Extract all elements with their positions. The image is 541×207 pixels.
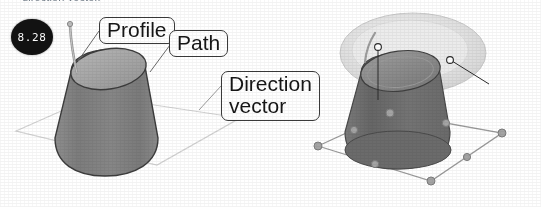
selection-marker-path-8-29	[447, 57, 454, 64]
scanned-figure-page: direction vector.	[0, 0, 541, 207]
figure-panel-8-28: 8.28 Profile Path Direction vector	[0, 0, 271, 207]
selection-marker-profile-8-29	[375, 44, 382, 51]
figure-number-badge-8-28: 8.28	[11, 19, 53, 55]
plane-handle-mid	[463, 153, 470, 160]
frustum-base-8-29	[345, 131, 451, 169]
scene-8-29	[270, 0, 541, 207]
leader-direction-8-28	[199, 86, 221, 110]
leader-path-8-28	[150, 45, 170, 72]
plane-handle-corner	[386, 109, 394, 117]
plane-handle-corner	[498, 129, 506, 137]
plane-handle-corner	[314, 142, 322, 150]
callout-path-8-28[interactable]: Path	[169, 30, 228, 57]
figure-panel-8-29: PDF Ptrend 8.29 Profile(Sketch3) Path	[270, 0, 541, 207]
plane-handle-corner	[427, 177, 435, 185]
plane-handle-mid	[350, 126, 357, 133]
plane-handle-mid	[371, 160, 378, 167]
direction-vector-tip-8-28	[67, 21, 72, 26]
plane-handle-mid	[442, 119, 449, 126]
callout-profile-8-28[interactable]: Profile	[99, 17, 175, 44]
